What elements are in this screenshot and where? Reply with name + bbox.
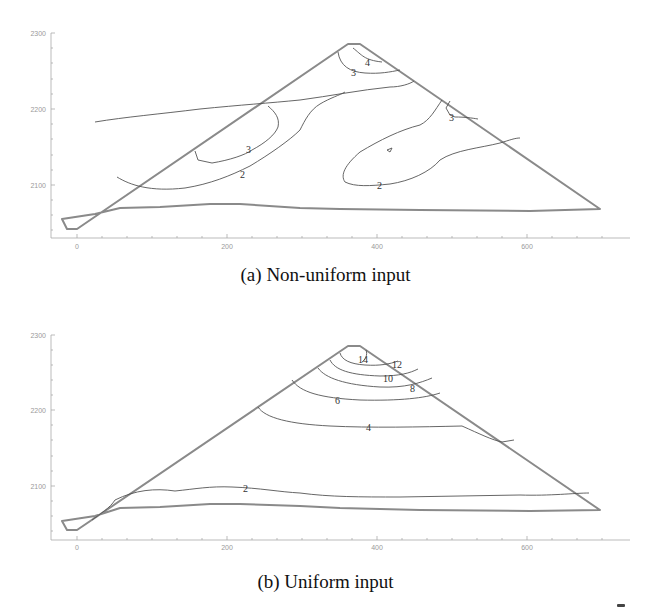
contour-label: 14 — [358, 354, 368, 365]
y-tick-label: 2100 — [30, 182, 46, 189]
contour-label: 4 — [365, 57, 370, 68]
x-tick-label: 200 — [221, 243, 233, 250]
contour-line — [92, 487, 589, 520]
contour-line — [387, 148, 392, 152]
contour-label: 2 — [243, 483, 248, 494]
contour-line — [330, 360, 418, 376]
contour-label: 8 — [410, 383, 415, 394]
contour-plot-b: 2300 2200 2100 0 200 400 600 14 12 10 — [0, 320, 651, 550]
x-tick-label: 600 — [521, 243, 533, 250]
contour-line — [343, 100, 520, 186]
x-tick-label: 0 — [75, 544, 79, 550]
contour-line — [117, 92, 345, 189]
dam-outline — [62, 44, 600, 229]
contour-label: 2 — [377, 180, 382, 191]
contour-label: 6 — [335, 395, 340, 406]
contour-label: 3 — [449, 112, 454, 123]
contour-line — [95, 81, 414, 122]
caption-a: (a) Non-uniform input — [0, 264, 651, 286]
y-ticks — [51, 33, 55, 230]
y-tick-label: 2200 — [30, 106, 46, 113]
x-tick-label: 400 — [371, 243, 383, 250]
y-tick-label: 2300 — [30, 332, 46, 339]
contour-plot-a: 2300 2200 2100 0 200 400 600 — [0, 0, 651, 260]
contour-label: 2 — [240, 169, 245, 180]
y-ticks — [51, 335, 55, 531]
x-tick-label: 400 — [371, 544, 383, 550]
panel-b: 2300 2200 2100 0 200 400 600 14 12 10 — [0, 320, 651, 610]
x-tick-label: 200 — [221, 544, 233, 550]
contour-line — [195, 106, 278, 163]
panel-a: 2300 2200 2100 0 200 400 600 — [0, 0, 651, 300]
contour-label: 10 — [383, 373, 393, 384]
page-mark — [617, 604, 625, 607]
contour-label: 4 — [366, 422, 371, 433]
x-ticks — [77, 234, 602, 238]
x-tick-label: 600 — [521, 544, 533, 550]
y-tick-label: 2200 — [30, 407, 46, 414]
contour-label: 12 — [392, 359, 402, 370]
contour-label: 3 — [351, 67, 356, 78]
caption-b: (b) Uniform input — [0, 571, 651, 593]
dam-outline — [62, 346, 600, 530]
y-tick-label: 2300 — [30, 30, 46, 37]
x-tick-label: 0 — [75, 243, 79, 250]
y-tick-label: 2100 — [30, 483, 46, 490]
contour-label: 3 — [246, 144, 251, 155]
x-ticks — [77, 536, 602, 540]
contour-line — [340, 353, 398, 365]
